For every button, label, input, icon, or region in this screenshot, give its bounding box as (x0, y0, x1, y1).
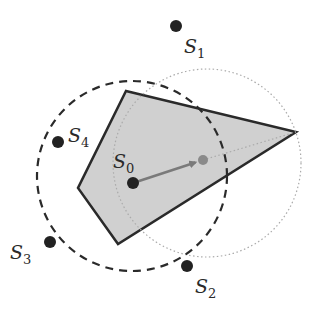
label-s3: S3 (10, 241, 31, 267)
label-s1: S1 (184, 35, 205, 61)
point-s1 (170, 20, 182, 32)
label-s2: S2 (195, 275, 216, 301)
geometry-diagram: S0S1S2S3S4 (0, 0, 316, 310)
shaded-polygon (78, 91, 296, 244)
point-s0 (127, 177, 139, 189)
point-s3 (44, 236, 56, 248)
label-s4: S4 (68, 124, 89, 150)
moved-point (198, 155, 208, 165)
point-s2 (181, 260, 193, 272)
point-s4 (52, 136, 64, 148)
